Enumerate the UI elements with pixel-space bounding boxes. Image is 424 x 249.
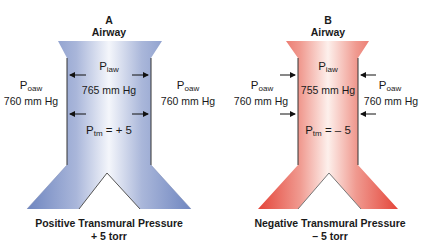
panel-b-inside-value: 755 mm Hg	[293, 84, 363, 96]
panel-b-outside-right-value: 760 mm Hg	[358, 95, 424, 107]
panel-a-outside-left-label: Poaw	[6, 79, 56, 95]
panel-b-transmural: Ptm = – 5	[293, 124, 363, 140]
panel-b-caption: Negative Transmural Pressure	[250, 217, 410, 229]
transmural-pressure-figure: A Airway Piaw 765 mm Hg Poaw 760 mm Hg P…	[0, 0, 424, 249]
panel-a-title: Airway	[79, 26, 139, 38]
panel-b-caption-value: – 5 torr	[300, 230, 360, 242]
panel-b-outside-right-label: Poaw	[365, 79, 415, 95]
panel-a-outside-right-label: Poaw	[163, 79, 213, 95]
panel-a-transmural: Ptm = + 5	[74, 124, 144, 140]
panel-a-caption: Positive Transmural Pressure	[29, 217, 189, 229]
panel-b-outside-left-label: Poaw	[237, 79, 287, 95]
panel-b-title: Airway	[298, 26, 358, 38]
panel-a-outside-left-value: 760 mm Hg	[0, 95, 62, 107]
panel-b-outside-left-value: 760 mm Hg	[229, 95, 293, 107]
panel-a-letter: A	[99, 14, 119, 26]
panel-a-inside-value: 765 mm Hg	[74, 84, 144, 96]
panel-a-outside-right-value: 760 mm Hg	[155, 95, 221, 107]
panel-b-inside-label: Piaw	[303, 60, 353, 76]
panel-a-caption-value: + 5 torr	[79, 230, 139, 242]
panel-b-letter: B	[318, 14, 338, 26]
panel-a-inside-label: Piaw	[84, 60, 134, 76]
